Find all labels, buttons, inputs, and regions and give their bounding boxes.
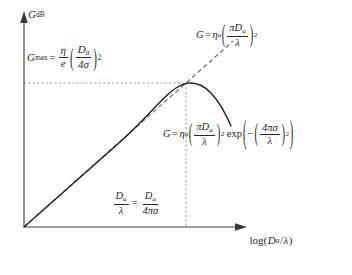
gmax-exponent: 2 xyxy=(98,54,102,61)
x-axis-numerator-subscript: a xyxy=(276,237,280,244)
x-axis-denominator: λ xyxy=(283,235,288,246)
x-axis-numerator: D xyxy=(268,235,276,246)
real-exp-open-paren: ( xyxy=(243,117,247,151)
equation-real-gain: G = ηa ( πDa λ )2 exp ( − ( 4πσ λ )2 ) xyxy=(163,121,294,147)
real-numerator: πDa xyxy=(194,121,214,136)
y-axis-label: GdB xyxy=(28,8,45,20)
real-equals: = xyxy=(172,129,178,140)
ideal-lhs: G xyxy=(196,30,204,41)
optimum-equals: = xyxy=(132,198,138,209)
gmax-inner-denominator: 4σ xyxy=(76,58,91,70)
ideal-equals: = xyxy=(205,30,211,41)
y-axis-arrowhead xyxy=(20,11,28,23)
gmax-efficiency-fraction: η e xyxy=(59,45,68,70)
real-exponent: 2 xyxy=(221,131,225,138)
real-exp-exponent: 2 xyxy=(286,131,290,138)
gmax-open-paren: ( xyxy=(70,44,74,70)
real-inner-close-paren: ) xyxy=(282,122,286,147)
gmax-equals: = xyxy=(49,52,55,63)
x-axis-label: log(Da/λ) xyxy=(249,234,293,246)
equation-gmax: Gmax = η e ( Da 4σ )2 xyxy=(27,44,101,70)
real-denominator: λ xyxy=(200,136,209,148)
gmax-e: e xyxy=(59,58,68,70)
y-axis-label-symbol: G xyxy=(28,9,36,20)
equation-ideal-gain: G = ηa ( πDa λ )2 xyxy=(196,22,257,48)
x-axis-arrowhead xyxy=(235,223,247,231)
optimum-rhs-numerator: Da xyxy=(143,190,158,205)
real-lhs: G xyxy=(163,129,171,140)
optimum-lhs-fraction: Da λ xyxy=(114,190,129,216)
gmax-inner-fraction: Da 4σ xyxy=(76,44,92,70)
gmax-close-paren: ) xyxy=(93,44,97,70)
optimum-lhs-denominator: λ xyxy=(117,205,126,217)
equation-optimum-diameter: Da λ = Da 4πσ xyxy=(112,190,162,216)
optimum-rhs-denominator: 4πσ xyxy=(141,205,161,217)
real-minus-sign: − xyxy=(247,129,253,140)
real-exp-function: exp xyxy=(227,129,242,140)
gmax-eta: η xyxy=(59,45,68,58)
ideal-exponent: 2 xyxy=(254,32,258,39)
optimum-rhs-fraction: Da 4πσ xyxy=(141,190,161,216)
ideal-eta-subscript: a xyxy=(218,32,222,39)
real-close-paren: ) xyxy=(217,122,221,147)
real-inner-open-paren: ( xyxy=(254,122,258,147)
ideal-close-paren: ) xyxy=(250,23,254,48)
real-eta-subscript: a xyxy=(185,131,189,138)
ideal-numerator: πDa xyxy=(227,22,247,37)
ideal-fraction: πDa λ xyxy=(227,22,247,48)
real-exp-close-paren: ) xyxy=(290,117,294,151)
ideal-open-paren: ( xyxy=(222,23,226,48)
real-open-paren: ( xyxy=(189,122,193,147)
figure-canvas: GdB Gmax = η e ( Da 4σ )2 G = ηa ( πD xyxy=(0,0,352,275)
real-fraction: πDa λ xyxy=(194,121,214,147)
x-axis-log-prefix: log( xyxy=(250,235,268,246)
gmax-lhs: G xyxy=(27,52,35,63)
real-exp-fraction: 4πσ λ xyxy=(260,122,280,146)
real-exp-denominator: λ xyxy=(265,135,274,147)
x-axis-suffix: ) xyxy=(289,235,293,246)
real-exp-numerator: 4πσ xyxy=(260,122,280,135)
optimum-lhs-numerator: Da xyxy=(114,190,129,205)
gmax-inner-numerator: Da xyxy=(76,44,92,58)
gmax-lhs-subscript: max xyxy=(35,54,48,61)
y-axis-label-subscript: dB xyxy=(36,11,45,18)
ideal-denominator: λ xyxy=(233,37,242,49)
